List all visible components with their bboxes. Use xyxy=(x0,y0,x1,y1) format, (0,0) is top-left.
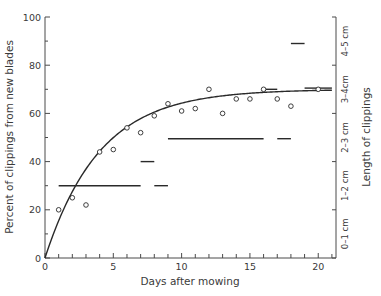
fitted-curve-path xyxy=(45,90,332,258)
data-point xyxy=(275,97,280,102)
y-tick-label: 80 xyxy=(29,60,41,71)
data-point xyxy=(261,87,266,92)
data-point xyxy=(111,147,116,152)
y-tick-label: 60 xyxy=(29,108,41,119)
data-point xyxy=(193,106,198,111)
y-tick-label: 20 xyxy=(29,204,41,215)
data-point xyxy=(316,87,321,92)
x-tick-label: 15 xyxy=(244,261,256,272)
data-point xyxy=(220,111,225,116)
right-axis-tick-label: 3–4cm xyxy=(340,75,350,103)
data-point xyxy=(84,203,89,208)
data-point xyxy=(56,208,61,213)
axes: 020406080100051015200–1 cm1–2 cm2–3 cm3–… xyxy=(23,12,350,273)
right-axis-tick-label: 1–2 cm xyxy=(340,170,350,201)
data-points xyxy=(56,87,320,212)
data-point xyxy=(234,97,239,102)
right-axis-tick-label: 4–5 cm xyxy=(340,26,350,57)
right-axis-tick-label: 0–1 cm xyxy=(340,219,350,250)
y-axis-label: Percent of clippings from new blades xyxy=(3,40,15,234)
data-point xyxy=(125,126,130,131)
data-point xyxy=(97,150,102,155)
data-point xyxy=(289,104,294,109)
clipping-length-segments xyxy=(59,44,332,186)
right-axis-tick-label: 2–3 cm xyxy=(340,122,350,153)
fitted-curve xyxy=(45,90,332,258)
y-tick-label: 40 xyxy=(29,156,41,167)
x-tick-label: 0 xyxy=(42,261,48,272)
data-point xyxy=(166,101,171,106)
data-point xyxy=(179,109,184,114)
data-point xyxy=(70,195,75,200)
y-tick-label: 0 xyxy=(35,253,41,264)
data-point xyxy=(152,114,157,119)
x-tick-label: 10 xyxy=(176,261,188,272)
y-tick-label: 100 xyxy=(23,12,41,23)
chart: 020406080100051015200–1 cm1–2 cm2–3 cm3–… xyxy=(0,0,381,296)
data-point xyxy=(138,130,143,135)
x-axis-label: Days after mowing xyxy=(140,275,239,287)
right-axis-label: Length of clippings xyxy=(360,87,372,187)
data-point xyxy=(207,87,212,92)
x-tick-label: 5 xyxy=(110,261,116,272)
data-point xyxy=(248,97,253,102)
x-tick-label: 20 xyxy=(312,261,324,272)
